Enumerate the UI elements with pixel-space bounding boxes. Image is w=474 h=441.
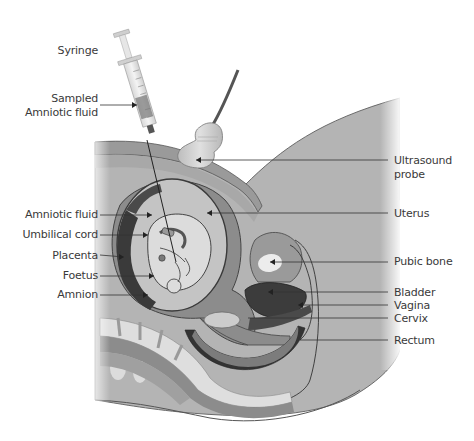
label-bladder: Bladder — [394, 286, 435, 299]
label-uterus: Uterus — [394, 207, 429, 220]
label-ultrasound-probe-line1: Ultrasound — [394, 154, 452, 167]
label-placenta: Placenta — [52, 249, 98, 262]
label-cervix: Cervix — [394, 312, 428, 325]
amniocentesis-diagram: Syringe Sampled Amniotic fluid Amniotic … — [0, 0, 474, 441]
label-syringe: Syringe — [58, 44, 98, 57]
label-amniotic-fluid: Amniotic fluid — [25, 208, 98, 221]
syringe — [109, 28, 163, 136]
label-vagina: Vagina — [394, 299, 430, 312]
ultrasound-probe — [178, 70, 238, 168]
label-sampled-fluid-line1: Sampled — [51, 92, 98, 105]
label-rectum: Rectum — [394, 334, 435, 347]
label-foetus: Foetus — [63, 269, 98, 282]
label-amnion: Amnion — [57, 288, 98, 301]
label-umbilical-cord: Umbilical cord — [22, 228, 98, 241]
label-ultrasound-probe-line2: probe — [394, 168, 425, 181]
label-sampled-fluid-line2: Amniotic fluid — [25, 106, 98, 119]
label-pubic-bone: Pubic bone — [394, 255, 452, 268]
